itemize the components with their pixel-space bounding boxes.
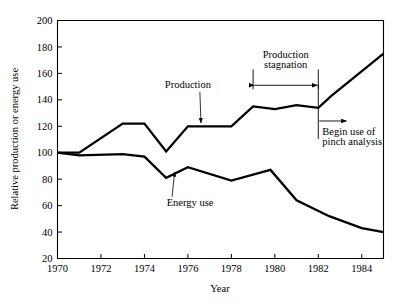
production-label: Production bbox=[165, 79, 212, 90]
x-axis-title: Year bbox=[210, 283, 230, 294]
x-tick-label: 1978 bbox=[221, 263, 242, 274]
y-tick-label: 140 bbox=[37, 94, 53, 105]
y-tick-label: 100 bbox=[37, 147, 53, 158]
y-tick-label: 40 bbox=[42, 227, 53, 238]
y-tick-label: 160 bbox=[37, 68, 53, 79]
y-tick-label: 80 bbox=[42, 174, 53, 185]
x-tick-label: 1984 bbox=[351, 263, 373, 274]
line-chart-svg: 20406080100120140160180200 1970197219741… bbox=[0, 0, 405, 306]
y-tick-label: 120 bbox=[37, 121, 53, 132]
pinch-label-line2: pinch analysis bbox=[322, 136, 382, 147]
x-tick-label: 1972 bbox=[90, 263, 111, 274]
x-tick-label: 1976 bbox=[177, 263, 198, 274]
chart-figure: 20406080100120140160180200 1970197219741… bbox=[0, 0, 405, 306]
y-tick-label: 180 bbox=[37, 42, 53, 53]
y-axis-title: Relative production or energy use bbox=[9, 68, 20, 210]
energy-use-label: Energy use bbox=[167, 197, 214, 208]
x-tick-label: 1974 bbox=[134, 263, 156, 274]
x-tick-label: 1982 bbox=[308, 263, 329, 274]
y-tick-label: 200 bbox=[37, 15, 53, 26]
x-tick-label: 1970 bbox=[47, 263, 68, 274]
x-tick-label: 1980 bbox=[264, 263, 285, 274]
y-tick-label: 60 bbox=[42, 200, 53, 211]
stagnation-label-line2: stagnation bbox=[264, 59, 308, 70]
